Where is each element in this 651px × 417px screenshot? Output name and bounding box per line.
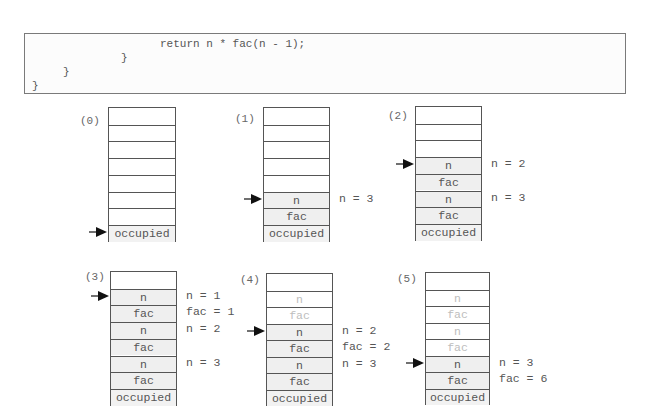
stack-frame: nfacoccupied	[263, 107, 330, 242]
stack-cell: occupied	[416, 224, 481, 241]
stack-cell	[111, 272, 176, 289]
stack-cell: fac	[426, 306, 489, 323]
stack-cell	[109, 175, 175, 192]
stack-cell: fac	[267, 340, 332, 357]
stack-cell: occupied	[426, 389, 489, 406]
stack-cell: fac	[416, 207, 481, 224]
stack-pointer-arrow-icon	[406, 358, 424, 368]
stack-cell: n	[267, 291, 332, 308]
stack-cell: occupied	[267, 390, 332, 407]
stack-label: (1)	[235, 113, 255, 125]
stack-cell: n	[426, 323, 489, 340]
stack-cell: n	[267, 357, 332, 374]
stack-label: (5)	[397, 273, 417, 285]
stack-cell: fac	[111, 305, 176, 322]
stack-cell: occupied	[264, 225, 329, 242]
stack-frame: occupied	[108, 107, 176, 242]
code-line-close-brace-inner: }	[121, 52, 128, 64]
stack-pointer-arrow-icon	[247, 326, 265, 336]
stack-cell: occupied	[109, 225, 175, 242]
stack-cell	[426, 273, 489, 290]
stack-cell	[109, 158, 175, 175]
stack-pointer-arrow-icon	[244, 194, 262, 204]
stack-pointer-arrow-icon	[396, 159, 414, 169]
code-line-close-brace-middle: }	[63, 66, 70, 78]
stack-cell: fac	[111, 372, 176, 389]
stack-cell: n	[111, 356, 176, 373]
stack-cell	[264, 175, 329, 192]
variable-annotation: n = 3	[491, 191, 526, 204]
stack-cell: fac	[264, 208, 329, 225]
stack-label: (0)	[80, 115, 100, 127]
variable-annotation: n = 3	[342, 357, 377, 370]
stack-frame: nfacnfacnfacoccupied	[266, 273, 333, 406]
stack-cell	[264, 125, 329, 142]
stack-pointer-arrow-icon	[89, 227, 107, 237]
stack-cell	[416, 140, 481, 157]
stack-label: (2)	[388, 110, 408, 122]
variable-annotation: n = 2	[186, 322, 221, 335]
stack-cell: fac	[416, 174, 481, 191]
code-line-return: return n * fac(n - 1);	[160, 38, 305, 50]
variable-annotation: n = 3	[186, 356, 221, 369]
stack-cell	[109, 108, 175, 125]
stack-cell: fac	[426, 372, 489, 389]
code-listing: return n * fac(n - 1); } } }	[24, 33, 626, 94]
stack-cell: n	[416, 191, 481, 208]
stack-cell	[109, 125, 175, 142]
stack-cell: n	[426, 290, 489, 307]
stack-cell	[264, 108, 329, 125]
stack-label: (4)	[240, 274, 260, 286]
stack-cell: fac	[426, 339, 489, 356]
variable-annotation: fac = 1	[186, 305, 234, 318]
stack-cell	[416, 107, 481, 124]
stack-cell	[109, 141, 175, 158]
variable-annotation: n = 1	[186, 289, 221, 302]
stack-cell: n	[426, 356, 489, 373]
variable-annotation: n = 3	[339, 192, 374, 205]
stack-frame: nfacnfacnfacoccupied	[110, 271, 177, 406]
stack-label: (3)	[85, 271, 105, 283]
variable-annotation: n = 2	[342, 324, 377, 337]
variable-annotation: n = 3	[499, 356, 534, 369]
stack-cell	[416, 124, 481, 141]
stack-cell: occupied	[111, 389, 176, 406]
stack-cell: n	[264, 192, 329, 209]
code-line-close-brace-outer: }	[32, 80, 39, 92]
variable-annotation: fac = 2	[342, 340, 390, 353]
stack-cell	[267, 274, 332, 291]
stack-cell: fac	[111, 339, 176, 356]
stack-cell: fac	[267, 307, 332, 324]
stack-cell	[264, 158, 329, 175]
stack-frame: nfacnfacnfacoccupied	[425, 272, 490, 405]
stack-cell: n	[267, 324, 332, 341]
stack-cell	[109, 192, 175, 209]
stack-cell: n	[111, 322, 176, 339]
stack-cell: n	[416, 157, 481, 174]
stack-cell	[264, 141, 329, 158]
stack-cell	[109, 208, 175, 225]
stack-frame: nfacnfacoccupied	[415, 106, 482, 241]
stack-pointer-arrow-icon	[91, 291, 109, 301]
stack-cell: fac	[267, 373, 332, 390]
variable-annotation: n = 2	[491, 157, 526, 170]
stack-cell: n	[111, 289, 176, 306]
variable-annotation: fac = 6	[499, 372, 547, 385]
